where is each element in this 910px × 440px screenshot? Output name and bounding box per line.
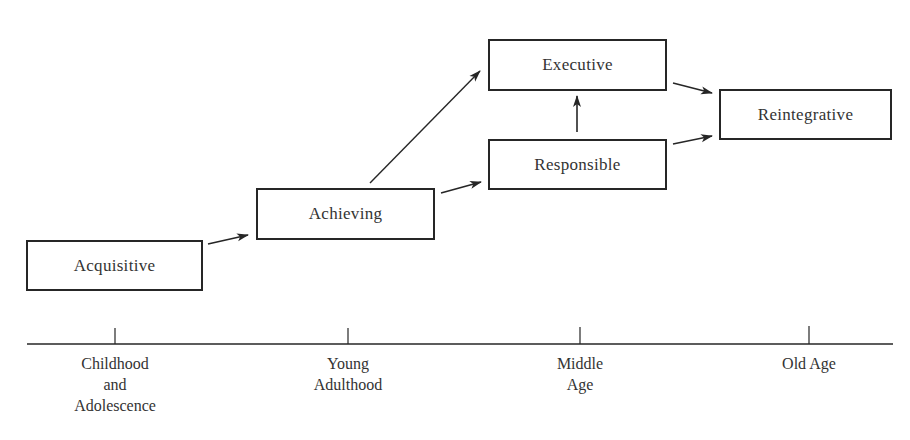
period-label-line: and <box>74 374 156 395</box>
stage-label: Acquisitive <box>74 256 156 276</box>
period-label-line: Middle <box>557 353 603 374</box>
period-middle-age: Middle Age <box>557 353 603 395</box>
stage-label: Executive <box>542 55 613 75</box>
period-label-line: Childhood <box>74 353 156 374</box>
stage-acquisitive: Acquisitive <box>26 240 203 291</box>
arrow-responsible-to-reintegrative <box>673 136 712 144</box>
stage-label: Achieving <box>309 204 383 224</box>
period-old-age: Old Age <box>782 353 836 374</box>
arrow-executive-to-reintegrative <box>673 83 712 93</box>
arrow-achieving-to-responsible <box>441 182 481 193</box>
stage-executive: Executive <box>488 39 667 91</box>
period-label-line: Age <box>557 374 603 395</box>
period-label-line: Old Age <box>782 353 836 374</box>
stage-achieving: Achieving <box>256 188 435 240</box>
stage-reintegrative: Reintegrative <box>719 89 892 140</box>
arrow-achieving-to-executive <box>370 71 480 183</box>
arrow-acquisitive-to-achieving <box>208 235 248 244</box>
period-label-line: Adolescence <box>74 395 156 416</box>
stage-label: Responsible <box>534 155 620 175</box>
period-label-line: Adulthood <box>314 374 382 395</box>
period-label-line: Young <box>314 353 382 374</box>
stage-responsible: Responsible <box>488 139 667 190</box>
period-young-adulthood: Young Adulthood <box>314 353 382 395</box>
period-childhood-adolescence: Childhood and Adolescence <box>74 353 156 416</box>
stage-label: Reintegrative <box>758 105 853 125</box>
